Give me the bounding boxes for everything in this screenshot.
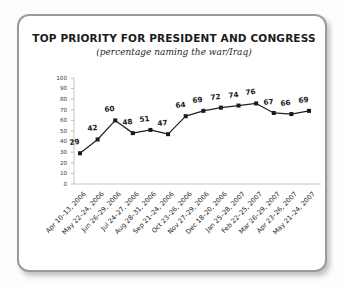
y-axis-tick-label: 30 xyxy=(49,149,67,155)
data-point-label: 69 xyxy=(298,95,309,105)
chart-plot-area: 0102030405060708090100294260485147646972… xyxy=(19,16,329,274)
data-point-label: 51 xyxy=(139,114,150,124)
data-point-label: 66 xyxy=(280,98,291,108)
data-point-label: 48 xyxy=(122,117,133,127)
data-point-label: 69 xyxy=(192,95,203,105)
y-axis-tick-label: 90 xyxy=(49,85,67,91)
data-point-label: 47 xyxy=(157,118,168,128)
y-axis-tick-label: 0 xyxy=(49,181,67,187)
data-point-label: 64 xyxy=(175,100,186,110)
chart-card: TOP PRIORITY FOR PRESIDENT AND CONGRESS … xyxy=(17,14,327,272)
data-point-label: 60 xyxy=(104,104,115,114)
y-axis-tick-label: 40 xyxy=(49,138,67,144)
data-point-label: 42 xyxy=(87,123,98,133)
y-axis-tick-label: 20 xyxy=(49,160,67,166)
y-axis-tick-label: 70 xyxy=(49,107,67,113)
data-point-label: 74 xyxy=(227,89,238,99)
data-point-label: 76 xyxy=(245,87,256,97)
y-axis-tick-label: 100 xyxy=(49,75,67,81)
y-axis-tick-label: 50 xyxy=(49,128,67,134)
y-axis-tick-label: 80 xyxy=(49,96,67,102)
data-point-label: 72 xyxy=(210,92,221,102)
y-axis-tick-label: 10 xyxy=(49,170,67,176)
data-point-label: 29 xyxy=(69,137,80,147)
data-point-label: 67 xyxy=(263,97,274,107)
y-axis-tick-label: 60 xyxy=(49,117,67,123)
screenshot-root: TOP PRIORITY FOR PRESIDENT AND CONGRESS … xyxy=(0,0,344,286)
